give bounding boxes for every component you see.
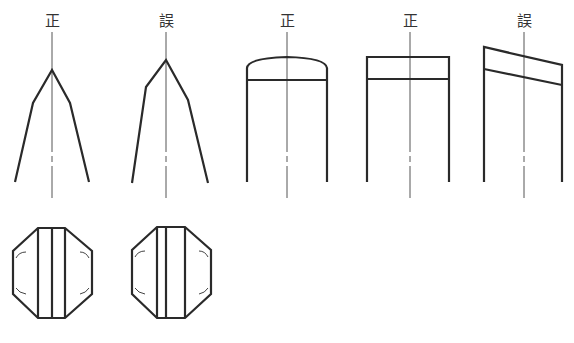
figure-3-label: 正 <box>280 12 295 30</box>
figure-4-flat-correct: 正 <box>367 12 449 198</box>
body-outline <box>367 57 449 182</box>
corner-arc <box>135 288 145 294</box>
octagon-section-2 <box>132 227 211 318</box>
corner-arc <box>16 288 26 294</box>
corner-arc <box>199 288 208 294</box>
figure-2-pointed-wrong: 誤 <box>132 12 208 198</box>
tip-outline <box>132 60 208 183</box>
figure-5-slanted-wrong: 誤 <box>484 12 562 198</box>
figure-3-rounded-correct: 正 <box>247 12 327 198</box>
corner-arc <box>199 251 208 257</box>
corner-arc <box>16 252 26 258</box>
corner-arc <box>80 252 89 258</box>
drawing-canvas: 正 誤 正 正 誤 <box>0 0 574 343</box>
figure-5-label: 誤 <box>517 12 532 30</box>
figure-2-label: 誤 <box>159 12 174 30</box>
shoulder-line <box>484 69 562 85</box>
body-outline <box>484 47 562 182</box>
corner-arc <box>135 251 145 257</box>
octagon-outline <box>132 227 211 318</box>
figure-1-label: 正 <box>45 12 60 30</box>
figure-4-label: 正 <box>403 12 418 30</box>
corner-arc <box>80 288 89 294</box>
octagon-section-1 <box>13 228 92 318</box>
figure-1-pointed-correct: 正 <box>15 12 89 198</box>
